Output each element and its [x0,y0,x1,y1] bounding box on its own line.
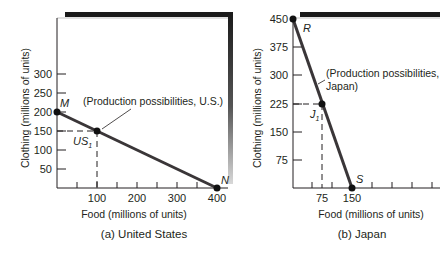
y-ticks [57,74,66,169]
y-axis-title: Clothing (millions of units) [251,48,263,168]
point-n [214,185,221,192]
point-us1 [94,128,101,135]
us-ppf-annotation: (Production possibilities, U.S.) [83,95,223,107]
y-tick-label: 450 [270,13,288,25]
x-tick-label: 100 [88,192,106,204]
x-ticks [77,182,197,188]
y-tick-label: 75 [276,154,288,166]
x-tick-labels: 100 200 300 400 [88,192,226,204]
y-tick-label: 375 [270,41,288,53]
japan-ppf-annotation-line1: (Production possibilities, [326,67,439,79]
point-s [349,185,356,192]
label-n: N [221,174,229,186]
label-s: S [356,173,364,185]
point-r [290,16,297,23]
x-tick-label: 300 [168,192,186,204]
y-tick-label: 300 [270,69,288,81]
label-m: M [60,97,70,109]
us-production-possibilities-line [57,112,217,188]
label-r: R [303,22,311,34]
panel-title-japan: (b) Japan [338,228,387,240]
y-tick-label: 200 [34,106,52,118]
x-tick-labels: 75 150 [316,192,361,204]
panel-title-us: (a) United States [101,228,188,240]
y-axis-title: Clothing (millions of units) [19,48,31,168]
y-tick-label: 150 [270,126,288,138]
x-axis-title: Food (millions of units) [81,208,187,220]
point-m [54,109,61,116]
y-tick-label: 250 [34,87,52,99]
y-tick-label: 225 [270,98,288,110]
frame-top-bar [300,12,440,17]
x-tick-label: 75 [316,192,328,204]
frame-top-bar [65,12,233,17]
annotation-leader [102,109,131,129]
y-tick-label: 300 [34,68,52,80]
label-j1: J1 [309,108,320,122]
y-tick-label: 150 [34,125,52,137]
figure: 300 250 200 150 100 50 100 200 300 400 [0,0,440,257]
panel-united-states: 300 250 200 150 100 50 100 200 300 400 [19,12,233,240]
x-tick-label: 400 [208,192,226,204]
x-tick-label: 200 [128,192,146,204]
x-axis-title: Food (millions of units) [318,208,424,220]
y-tick-labels: 450 375 300 225 150 75 [270,13,288,166]
annotation-leader [318,80,325,84]
frame-right-bar [228,12,233,184]
y-tick-labels: 300 250 200 150 100 50 [34,68,52,175]
x-ticks [312,182,432,188]
label-us1: US1 [73,135,92,149]
panel-japan: 450 375 300 225 150 75 75 150 [251,12,440,240]
y-tick-label: 50 [40,163,52,175]
x-tick-label: 150 [343,192,361,204]
point-j1 [319,101,326,108]
y-tick-label: 100 [34,144,52,156]
japan-ppf-annotation-line2: Japan) [326,80,358,92]
